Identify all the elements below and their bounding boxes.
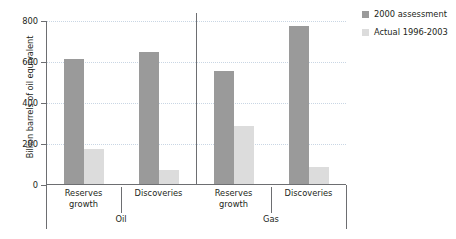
group-label: Gas — [196, 214, 346, 224]
legend-label: Actual 1996-2003 — [374, 27, 448, 37]
legend-item[interactable]: Actual 1996-2003 — [362, 27, 448, 37]
group-label: Oil — [46, 214, 196, 224]
y-axis-tick-label: 600 — [22, 57, 38, 67]
y-axis-tick-label: 0 — [33, 180, 38, 190]
group-divider — [196, 13, 197, 185]
category-label: Discoveries — [271, 188, 346, 199]
bar — [309, 167, 329, 184]
chart-legend: 2000 assessmentActual 1996-2003 — [362, 9, 448, 45]
y-axis-tick-label: 800 — [22, 16, 38, 26]
category-label: Reservesgrowth — [196, 188, 271, 209]
y-axis-title: Billion barrels of oil equivalent — [25, 7, 35, 187]
bar — [84, 149, 104, 184]
y-axis-tick: 600 — [41, 62, 46, 63]
category-label-line: Reserves — [196, 188, 271, 199]
bar — [289, 26, 309, 184]
category-label: Discoveries — [121, 188, 196, 199]
category-label-line: Discoveries — [271, 188, 346, 199]
bar — [64, 59, 84, 184]
bar — [159, 170, 179, 184]
category-axis-boundary-tick — [346, 185, 347, 229]
legend-item[interactable]: 2000 assessment — [362, 9, 448, 19]
legend-swatch-icon — [362, 29, 369, 36]
category-axis: ReservesgrowthDiscoveriesReservesgrowthD… — [46, 185, 346, 239]
legend-swatch-icon — [362, 11, 369, 18]
bar — [234, 126, 254, 184]
category-label-line: Reserves — [46, 188, 121, 199]
legend-label: 2000 assessment — [374, 9, 447, 19]
plot-area: 0200400600800 — [46, 21, 346, 185]
bar — [214, 71, 234, 184]
bar-chart-figure: Billion barrels of oil equivalent 020040… — [0, 0, 456, 239]
category-label-line: growth — [46, 199, 121, 210]
y-axis-tick: 200 — [41, 144, 46, 145]
category-label-line: Discoveries — [121, 188, 196, 199]
category-label-line: growth — [196, 199, 271, 210]
y-axis-tick: 400 — [41, 103, 46, 104]
y-axis-tick-label: 400 — [22, 98, 38, 108]
y-axis-tick-label: 200 — [22, 139, 38, 149]
y-axis-tick: 800 — [41, 21, 46, 22]
bar — [139, 52, 159, 184]
category-label: Reservesgrowth — [46, 188, 121, 209]
